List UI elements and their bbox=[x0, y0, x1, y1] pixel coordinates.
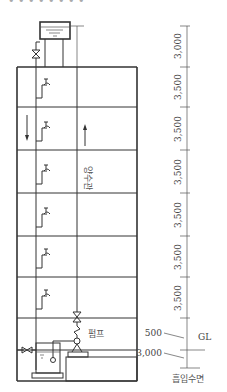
dim-label: 3,500 bbox=[173, 116, 183, 142]
suction-depth-label: 3,000 bbox=[136, 348, 162, 358]
water-supply-diagram: 양수관 펌프 3,000 3,500 3,50 bbox=[0, 0, 227, 392]
faucets bbox=[36, 79, 50, 309]
faucet-icon bbox=[36, 165, 50, 184]
faucet-icon bbox=[36, 290, 50, 309]
riser-pipe: 양수관 bbox=[73, 67, 93, 338]
faucet-icon bbox=[36, 79, 50, 98]
elevated-tank bbox=[40, 22, 84, 67]
dim-label: 3,000 bbox=[173, 33, 183, 59]
suction-tank bbox=[17, 343, 63, 378]
intake-level-label: 흡입수면 bbox=[172, 373, 204, 384]
flow-arrows bbox=[25, 115, 87, 146]
pump-icon: 펌프 bbox=[53, 328, 137, 381]
gl-label: GL bbox=[198, 332, 211, 342]
dim-label: 3,500 bbox=[173, 244, 183, 270]
dim-label: 3,500 bbox=[173, 285, 183, 311]
faucet-icon bbox=[36, 122, 50, 141]
riser-label: 양수관 bbox=[83, 166, 93, 190]
pump-label: 펌프 bbox=[88, 328, 104, 339]
faucet-icon bbox=[36, 208, 50, 227]
gl-offset-label: 500 bbox=[145, 328, 162, 338]
dim-label: 3,500 bbox=[173, 74, 183, 100]
dim-label: 3,500 bbox=[173, 202, 183, 228]
faucet-icon bbox=[36, 249, 50, 268]
dim-label: 3,500 bbox=[173, 159, 183, 185]
dimension-chain: 3,000 3,500 3,500 3,500 3,500 3,500 3,50… bbox=[136, 26, 211, 384]
downfeed-pipe bbox=[32, 42, 40, 370]
